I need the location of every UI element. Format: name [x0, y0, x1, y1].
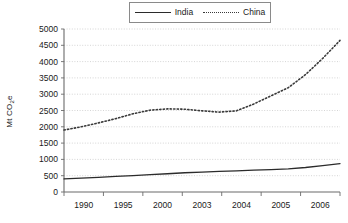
x-axis-ticks: 1990199520002003200420052006: [64, 192, 340, 210]
y-axis-ticks: 0500100015002000250030003500400045005000: [39, 24, 64, 197]
x-tick-label: 2000: [153, 200, 172, 210]
y-tick-label: 4000: [39, 57, 58, 67]
x-tick-label: 1995: [114, 200, 133, 210]
series-line-china: [64, 40, 340, 130]
x-tick-label: 1990: [74, 200, 93, 210]
y-tick-label: 3500: [39, 73, 58, 83]
line-chart: India China Mt CO2e 05001000150020002500…: [0, 0, 348, 223]
series-line-india: [64, 164, 340, 179]
y-tick-label: 2500: [39, 106, 58, 116]
gridlines: [64, 29, 340, 176]
plot-area: 0500100015002000250030003500400045005000…: [0, 0, 348, 223]
y-tick-label: 4500: [39, 40, 58, 50]
x-tick-label: 2003: [193, 200, 212, 210]
x-tick-label: 2004: [232, 200, 251, 210]
y-tick-label: 2000: [39, 122, 58, 132]
y-tick-label: 1500: [39, 138, 58, 148]
y-tick-label: 5000: [39, 24, 58, 34]
y-tick-label: 1000: [39, 154, 58, 164]
data-series-lines: [64, 40, 340, 179]
y-tick-label: 500: [44, 171, 58, 181]
y-tick-label: 3000: [39, 89, 58, 99]
y-tick-label: 0: [53, 187, 58, 197]
x-tick-label: 2006: [311, 200, 330, 210]
x-tick-label: 2005: [271, 200, 290, 210]
